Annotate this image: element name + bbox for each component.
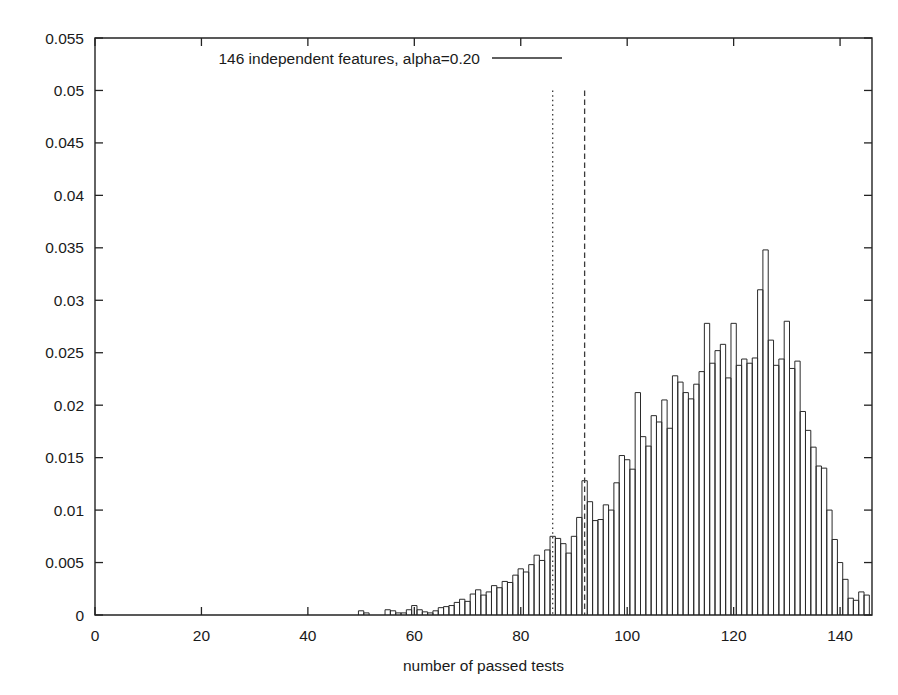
tick-marks-group bbox=[95, 38, 872, 615]
histogram-bars-group bbox=[358, 250, 869, 615]
histogram-bar bbox=[784, 321, 789, 615]
histogram-bar bbox=[726, 378, 731, 615]
y-tick-label: 0 bbox=[75, 607, 84, 624]
histogram-bar bbox=[768, 340, 773, 615]
histogram-bar bbox=[561, 544, 566, 615]
histogram-bar bbox=[758, 290, 763, 615]
histogram-bar bbox=[704, 323, 709, 615]
y-tick-label: 0.035 bbox=[45, 239, 84, 256]
histogram-bar bbox=[507, 582, 512, 615]
y-tick-label: 0.02 bbox=[54, 397, 84, 414]
histogram-bar bbox=[688, 399, 693, 615]
histogram-bar bbox=[736, 365, 741, 615]
y-tick-label: 0.04 bbox=[54, 187, 85, 204]
histogram-bar bbox=[816, 466, 821, 615]
histogram-bar bbox=[619, 456, 624, 615]
x-tick-label: 40 bbox=[299, 627, 317, 644]
y-tick-label: 0.005 bbox=[45, 554, 84, 571]
histogram-bar bbox=[790, 368, 795, 615]
x-tick-label: 120 bbox=[721, 627, 747, 644]
histogram-bar bbox=[513, 575, 518, 615]
histogram-bar bbox=[699, 372, 704, 615]
histogram-bar bbox=[694, 384, 699, 615]
histogram-bar bbox=[853, 600, 858, 615]
histogram-bar bbox=[821, 468, 826, 615]
y-tick-label: 0.045 bbox=[45, 134, 84, 151]
x-axis-title: number of passed tests bbox=[403, 657, 564, 674]
histogram-bar bbox=[710, 363, 715, 615]
histogram-bar bbox=[625, 460, 630, 615]
histogram-bar bbox=[843, 579, 848, 615]
axes-group bbox=[95, 38, 872, 615]
legend-group: 146 independent features, alpha=0.20 bbox=[218, 50, 562, 67]
y-tick-labels-group: 00.0050.010.0150.020.0250.030.0350.040.0… bbox=[45, 30, 84, 624]
legend-label: 146 independent features, alpha=0.20 bbox=[218, 50, 480, 67]
x-tick-label: 60 bbox=[406, 627, 424, 644]
y-tick-label: 0.05 bbox=[54, 82, 84, 99]
histogram-bar bbox=[848, 598, 853, 615]
x-tick-label: 0 bbox=[91, 627, 100, 644]
y-tick-label: 0.015 bbox=[45, 449, 84, 466]
histogram-bar bbox=[534, 555, 539, 615]
histogram-bar bbox=[486, 592, 491, 615]
histogram-bar bbox=[662, 400, 667, 615]
histogram-bar bbox=[667, 428, 672, 615]
histogram-bar bbox=[593, 521, 598, 615]
histogram-bar bbox=[406, 610, 411, 615]
histogram-bar bbox=[651, 416, 656, 615]
histogram-bar bbox=[417, 610, 422, 615]
histogram-bar bbox=[460, 599, 465, 615]
histogram-bar bbox=[779, 359, 784, 615]
histogram-bar bbox=[481, 595, 486, 615]
histogram-bar bbox=[774, 365, 779, 615]
histogram-bar bbox=[646, 446, 651, 615]
histogram-bar bbox=[832, 539, 837, 615]
histogram-bar bbox=[545, 550, 550, 615]
histogram-bar bbox=[683, 393, 688, 615]
histogram-bar bbox=[609, 510, 614, 615]
histogram-bar bbox=[752, 358, 757, 615]
histogram-bar bbox=[720, 344, 725, 615]
histogram-bar bbox=[614, 483, 619, 615]
x-tick-label: 140 bbox=[827, 627, 853, 644]
histogram-bar bbox=[497, 588, 502, 615]
histogram-bar bbox=[630, 469, 635, 615]
histogram-bar bbox=[571, 536, 576, 615]
histogram-bar bbox=[635, 393, 640, 615]
histogram-bar bbox=[747, 363, 752, 615]
histogram-bar bbox=[827, 510, 832, 615]
histogram-bar bbox=[555, 538, 560, 615]
y-tick-label: 0.055 bbox=[45, 30, 84, 47]
histogram-bar bbox=[678, 382, 683, 615]
histogram-bar bbox=[641, 437, 646, 615]
y-tick-label: 0.01 bbox=[54, 502, 84, 519]
histogram-bar bbox=[449, 606, 454, 615]
chart-container: 00.0050.010.0150.020.0250.030.0350.040.0… bbox=[0, 0, 898, 695]
histogram-bar bbox=[465, 601, 470, 615]
histogram-bar bbox=[672, 376, 677, 615]
histogram-bar bbox=[598, 520, 603, 615]
histogram-bar bbox=[444, 607, 449, 615]
y-tick-label: 0.025 bbox=[45, 344, 84, 361]
histogram-bar bbox=[742, 359, 747, 615]
histogram-bar bbox=[763, 250, 768, 615]
histogram-bar bbox=[385, 610, 390, 615]
histogram-bar bbox=[859, 592, 864, 615]
histogram-bar bbox=[795, 361, 800, 615]
histogram-bar bbox=[811, 447, 816, 615]
histogram-bar bbox=[805, 430, 810, 615]
histogram-bar bbox=[864, 595, 869, 615]
histogram-bar bbox=[529, 565, 534, 615]
histogram-plot: 00.0050.010.0150.020.0250.030.0350.040.0… bbox=[0, 0, 898, 695]
histogram-bar bbox=[438, 608, 443, 615]
histogram-bar bbox=[731, 323, 736, 615]
plot-border bbox=[95, 38, 872, 615]
histogram-bar bbox=[566, 553, 571, 615]
x-tick-labels-group: 020406080100120140 bbox=[91, 627, 854, 644]
histogram-bar bbox=[715, 351, 720, 615]
histogram-bar bbox=[454, 602, 459, 615]
histogram-bar bbox=[502, 581, 507, 615]
histogram-bar bbox=[476, 590, 481, 615]
histogram-bar bbox=[491, 586, 496, 615]
histogram-bar bbox=[800, 411, 805, 615]
